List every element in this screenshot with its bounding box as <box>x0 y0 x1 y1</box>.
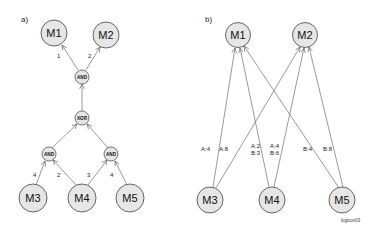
edge-label-and-to-m2: 2 <box>88 53 92 59</box>
edge-label-m3-to-m2: A:8 <box>219 146 229 152</box>
node-b-m5-label: M5 <box>334 194 349 206</box>
node-a-m2-label: M2 <box>98 29 113 41</box>
node-a-m3: M3 <box>19 184 47 212</box>
node-b-m4-label: M4 <box>264 194 279 206</box>
node-a-m1: M1 <box>41 20 67 46</box>
edge-label-m4-to-and-right: 3 <box>87 172 91 178</box>
edge-m4-to-m2 <box>274 48 304 187</box>
edge-m5-to-and-right <box>115 161 127 185</box>
panel-a-label: a) <box>21 15 28 24</box>
edge-m5-to-m2 <box>309 47 343 187</box>
node-a-and-left-label: AND <box>44 152 55 157</box>
node-a-and-top: AND <box>75 70 89 84</box>
edge-and-to-m1 <box>62 45 78 70</box>
edge-and-left-to-xor <box>52 124 77 148</box>
edge-m4-to-m1 <box>240 48 269 187</box>
node-a-xor: XOR <box>75 111 89 125</box>
panel-b: b) A:4 A:8 A:2 B:3 A:4 B:6 B:4 B:8 M1 M2… <box>197 15 361 223</box>
edge-m3-to-m1 <box>213 48 235 187</box>
node-b-m3-label: M3 <box>202 194 217 206</box>
edge-label-m3-to-and-left: 4 <box>33 172 37 178</box>
node-a-m1-label: M1 <box>46 27 61 39</box>
node-a-and-right-label: AND <box>106 152 117 157</box>
diagram-canvas: a) 1 2 4 2 3 4 M1 M2 AND X <box>0 0 378 234</box>
edge-label-m4-to-m1-a: A:2 <box>251 143 261 149</box>
edge-label-m4-to-m2-a: A:4 <box>270 143 280 149</box>
edge-m3-to-m2 <box>216 47 300 188</box>
node-a-m4-label: M4 <box>74 192 89 204</box>
node-a-and-right: AND <box>104 147 118 161</box>
panel-b-label: b) <box>205 15 212 24</box>
watermark: logicon03 <box>341 218 361 223</box>
edge-label-m5-to-m1: B:4 <box>303 146 313 152</box>
node-b-m1: M1 <box>226 23 251 48</box>
node-a-m3-label: M3 <box>25 192 40 204</box>
edge-and-right-to-xor <box>87 124 108 148</box>
node-b-m5: M5 <box>329 187 355 213</box>
edge-label-m4-to-and-left: 2 <box>57 172 61 178</box>
edge-label-m5-to-m2: B:8 <box>323 146 333 152</box>
node-b-m3: M3 <box>197 187 223 213</box>
node-a-and-top-label: AND <box>77 75 88 80</box>
node-b-m4: M4 <box>259 187 285 213</box>
node-b-m1-label: M1 <box>230 29 245 41</box>
node-b-m2-label: M2 <box>297 29 312 41</box>
edge-label-m3-to-m1: A:4 <box>201 146 211 152</box>
diagram-svg: a) 1 2 4 2 3 4 M1 M2 AND X <box>0 0 378 234</box>
edge-label-m5-to-and-right: 4 <box>110 172 114 178</box>
node-a-m5-label: M5 <box>122 192 137 204</box>
node-a-m4: M4 <box>68 184 96 212</box>
edge-m4-to-and-right <box>88 160 107 185</box>
edge-m3-to-and-left <box>36 161 45 185</box>
node-a-and-left: AND <box>42 147 56 161</box>
node-a-m2: M2 <box>93 22 119 48</box>
edge-label-and-to-m1: 1 <box>57 53 61 59</box>
node-b-m2: M2 <box>293 23 318 48</box>
edge-label-m4-to-m1-b: B:3 <box>251 150 261 156</box>
node-a-xor-label: XOR <box>77 116 88 121</box>
node-a-m5: M5 <box>116 184 144 212</box>
panel-a: a) 1 2 4 2 3 4 M1 M2 AND X <box>19 15 144 212</box>
edge-label-m4-to-m2-b: B:6 <box>270 150 280 156</box>
